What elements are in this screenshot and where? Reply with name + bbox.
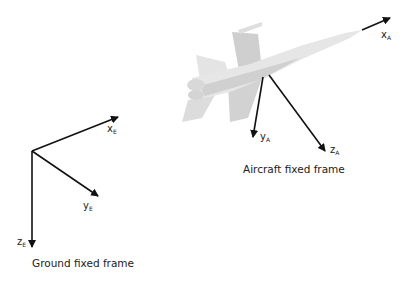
aircraft-illustration bbox=[182, 22, 362, 122]
z-a-label: zA bbox=[330, 144, 339, 156]
y-e-label: yE bbox=[83, 200, 93, 212]
x-e-label: xE bbox=[107, 123, 117, 135]
x-e-axis-arrow bbox=[32, 117, 118, 151]
z-e-label: zE bbox=[17, 236, 26, 248]
diagram-canvas bbox=[0, 0, 402, 285]
x-a-label: xA bbox=[381, 29, 391, 41]
z-a-axis-arrow bbox=[269, 75, 325, 151]
ground-axes bbox=[32, 117, 118, 247]
ground-frame-caption: Ground fixed frame bbox=[32, 257, 134, 269]
y-a-label: yA bbox=[260, 131, 270, 143]
y-e-axis-arrow bbox=[32, 151, 98, 196]
aircraft-frame-caption: Aircraft fixed frame bbox=[243, 163, 345, 175]
aircraft-axes bbox=[253, 18, 390, 151]
